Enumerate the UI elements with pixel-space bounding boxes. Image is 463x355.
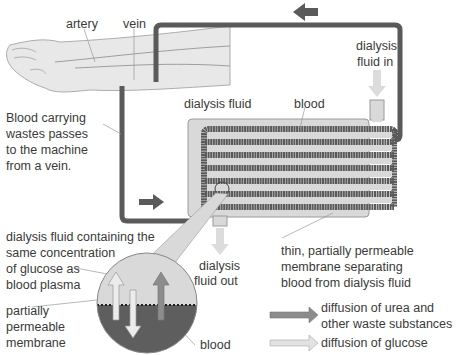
label-fluid-in-2: fluid in <box>357 54 393 70</box>
label-vein: vein <box>123 16 146 32</box>
flow-arrow-right-icon <box>139 194 164 210</box>
label-thin-membrane-2: membrane separating <box>281 259 403 275</box>
label-blood-carrying-1: Blood carrying <box>6 110 86 126</box>
flow-arrow-left-icon <box>293 3 318 21</box>
fluid-out-arrow-icon <box>211 228 229 255</box>
label-blood-carrying-2: wastes passes <box>6 126 88 142</box>
label-pp-membrane-1: partially <box>6 303 49 319</box>
arm-illustration <box>7 26 230 92</box>
label-dialysis-fluid: dialysis fluid <box>184 96 251 112</box>
label-fluid-out-2: fluid out <box>194 273 238 289</box>
legend-urea-arrow-icon <box>270 307 318 323</box>
label-artery: artery <box>66 16 98 32</box>
membrane-inset <box>97 253 197 355</box>
label-containing-1: dialysis fluid containing the <box>6 229 155 245</box>
legend-urea-1: diffusion of urea and <box>321 300 434 316</box>
label-thin-membrane-3: blood from dialysis fluid <box>281 275 411 291</box>
legend-glucose-arrow-icon <box>270 335 318 351</box>
label-thin-membrane-1: thin, partially permeable <box>281 243 414 259</box>
label-fluid-out-1: dialysis <box>199 258 240 274</box>
label-containing-3: of glucose as <box>6 261 80 277</box>
label-fluid-in-1: dialysis <box>356 38 397 54</box>
label-blood-carrying-4: from a vein. <box>6 158 71 174</box>
label-blood-carrying-3: to the machine <box>6 142 88 158</box>
legend-glucose: diffusion of glucose <box>321 335 428 351</box>
label-containing-2: same concentration <box>6 245 115 261</box>
fluid-in-arrow-icon <box>368 70 386 97</box>
label-blood: blood <box>294 96 325 112</box>
legend-urea-2: other waste substances <box>321 316 452 332</box>
label-pp-membrane-3: membrane <box>6 335 66 351</box>
label-pp-membrane-2: permeable <box>6 319 65 335</box>
label-containing-4: blood plasma <box>6 277 80 293</box>
label-blood-inset: blood <box>200 337 231 353</box>
